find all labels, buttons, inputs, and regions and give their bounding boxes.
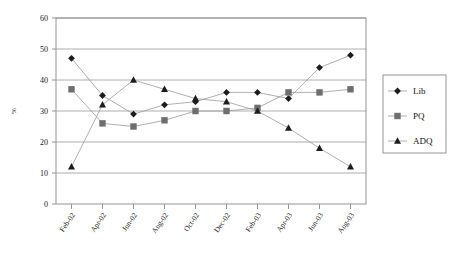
data-point-pq <box>161 117 167 123</box>
y-axis-title: % <box>10 108 18 114</box>
x-tick-label: Aug-03 <box>336 211 357 235</box>
data-point-pq <box>223 108 229 114</box>
x-tick-label: Jun-03 <box>306 211 325 233</box>
x-tick-label: Feb-02 <box>58 211 78 234</box>
data-point-adq <box>130 76 137 83</box>
y-axis-ticks <box>52 18 56 204</box>
data-point-adq <box>316 144 323 151</box>
data-point-lib <box>130 111 137 118</box>
x-tick-label: Aug-02 <box>150 211 171 235</box>
x-tick-label: Jun-02 <box>120 211 139 233</box>
x-tick-label: Apr-03 <box>274 211 294 234</box>
data-point-pq <box>99 120 105 126</box>
series-adq <box>68 76 354 169</box>
data-point-pq <box>130 123 136 129</box>
data-point-adq <box>347 163 354 170</box>
legend-marker-pq <box>394 113 400 119</box>
y-tick-label: 0 <box>44 200 48 209</box>
data-point-adq <box>68 163 75 170</box>
x-tick-label: Dec-02 <box>212 211 232 234</box>
y-tick-label: 10 <box>40 169 48 178</box>
data-point-adq <box>285 124 292 131</box>
x-tick-label: Oct-02 <box>182 211 201 233</box>
chart-legend: LibPQADQ <box>383 75 446 153</box>
series-lib <box>68 52 354 118</box>
x-tick-label: Feb-03 <box>244 211 264 234</box>
series-line-lib <box>72 55 351 114</box>
y-tick-label: 60 <box>40 14 48 23</box>
data-point-pq <box>68 86 74 92</box>
data-point-lib <box>161 101 168 108</box>
series-line-adq <box>72 80 351 167</box>
data-point-lib <box>347 52 354 59</box>
legend-label-lib: Lib <box>413 86 426 96</box>
chart-container: 0102030405060 Feb-02Apr-02Jun-02Aug-02Oc… <box>0 0 450 269</box>
y-tick-label: 20 <box>40 138 48 147</box>
data-point-pq <box>192 108 198 114</box>
data-point-pq <box>347 86 353 92</box>
series-line-pq <box>72 89 351 126</box>
y-axis-title-text: % <box>10 108 18 114</box>
data-point-lib <box>254 89 261 96</box>
y-tick-label: 50 <box>40 45 48 54</box>
y-axis-tick-labels: 0102030405060 <box>40 14 48 209</box>
data-point-pq <box>316 89 322 95</box>
series-pq <box>68 86 353 130</box>
legend-label-pq: PQ <box>413 111 425 121</box>
x-tick-label: Apr-02 <box>88 211 108 234</box>
legend-label-adq: ADQ <box>413 136 433 146</box>
data-point-lib <box>223 89 230 96</box>
y-tick-label: 30 <box>40 107 48 116</box>
data-point-pq <box>285 89 291 95</box>
x-axis-ticks <box>72 204 351 209</box>
line-chart: 0102030405060 Feb-02Apr-02Jun-02Aug-02Oc… <box>0 0 450 269</box>
x-axis-tick-labels: Feb-02Apr-02Jun-02Aug-02Oct-02Dec-02Feb-… <box>58 211 357 235</box>
data-point-adq <box>99 101 106 108</box>
y-tick-label: 40 <box>40 76 48 85</box>
